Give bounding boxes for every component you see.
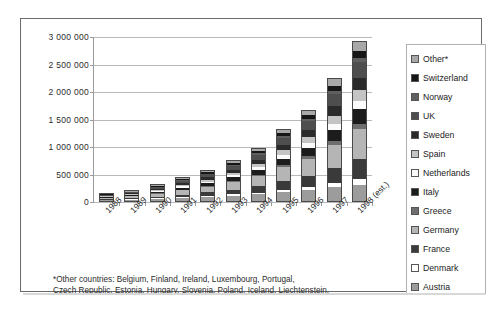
legend-label: Italy	[423, 187, 439, 197]
bar-segment-sweden	[328, 106, 341, 116]
y-axis-tick-label: 1 500 000	[48, 115, 89, 125]
legend-label: Netherlands	[423, 168, 470, 178]
bar-segment-uk	[277, 138, 290, 145]
stacked-bar[interactable]	[301, 110, 316, 202]
y-tick-mark	[90, 175, 94, 176]
legend-label: Sweden	[423, 130, 454, 140]
legend-item[interactable]: Netherlands	[411, 163, 482, 182]
legend-item[interactable]: Austria	[411, 277, 482, 296]
legend-label: UK	[423, 111, 435, 121]
legend-swatch-icon	[411, 74, 419, 82]
stacked-bar[interactable]	[226, 160, 241, 202]
legend-swatch-icon	[411, 55, 419, 63]
legend-label: Germany	[423, 225, 459, 235]
legend-item[interactable]: Switzerland	[411, 68, 482, 87]
bar-segment-sweden	[302, 130, 315, 137]
legend-swatch-icon	[411, 264, 419, 272]
bar-segment-germany	[277, 167, 290, 181]
legend-label: Denmark	[423, 263, 458, 273]
y-axis-tick-label: 3 000 000	[48, 32, 89, 42]
y-axis-tick-label: 0	[84, 197, 89, 207]
chart-frame: 3 000 0002 500 0002 000 0001 500 0001 00…	[20, 18, 482, 292]
stacked-bar[interactable]	[276, 129, 291, 202]
legend-item[interactable]: Norway	[411, 87, 482, 106]
legend-item[interactable]: Spain	[411, 144, 482, 163]
y-tick-mark	[90, 202, 94, 203]
y-tick-mark	[90, 120, 94, 121]
bar-segment-sweden	[353, 78, 366, 90]
bar-segment-spain	[353, 90, 366, 101]
legend-swatch-icon	[411, 226, 419, 234]
legend-swatch-icon	[411, 245, 419, 253]
legend-item[interactable]: France	[411, 239, 482, 258]
stacked-bar[interactable]	[251, 148, 266, 202]
legend-label: Norway	[423, 92, 452, 102]
legend-item[interactable]: Sweden	[411, 125, 482, 144]
bar-segment-uk	[302, 121, 315, 130]
stacked-bar[interactable]	[352, 41, 367, 202]
chart-screenshot: 3 000 0002 500 0002 000 0001 500 0001 00…	[0, 0, 504, 309]
y-axis-tick-label: 1 000 000	[48, 142, 89, 152]
bar-segment-italy	[353, 109, 366, 124]
bar-segment-italy	[302, 148, 315, 156]
legend-item[interactable]: Germany	[411, 220, 482, 239]
bar-segment-france	[302, 176, 315, 187]
bar-segment-spain	[328, 116, 341, 124]
legend-swatch-icon	[411, 150, 419, 158]
legend-swatch-icon	[411, 93, 419, 101]
chart-legend: Other*SwitzerlandNorwayUKSwedenSpainNeth…	[406, 44, 486, 294]
legend-label: Other*	[423, 54, 448, 64]
bar-segment-germany	[353, 129, 366, 159]
legend-swatch-icon	[411, 283, 419, 291]
legend-swatch-icon	[411, 188, 419, 196]
y-tick-mark	[90, 147, 94, 148]
legend-swatch-icon	[411, 131, 419, 139]
legend-label: Greece	[423, 206, 452, 216]
legend-item[interactable]: Greece	[411, 201, 482, 220]
legend-item[interactable]: Denmark	[411, 258, 482, 277]
bar-segment-germany	[252, 176, 265, 186]
y-axis-tick-label: 2 000 000	[48, 87, 89, 97]
bar-segment-germany	[328, 145, 341, 168]
bar-segment-uk	[353, 62, 366, 78]
y-tick-mark	[90, 92, 94, 93]
bar-segment-france	[328, 168, 341, 183]
gridline	[94, 65, 372, 66]
gridline	[94, 37, 372, 38]
legend-swatch-icon	[411, 169, 419, 177]
footnote-line-1: *Other countries: Belgium, Finland, Irel…	[53, 274, 353, 285]
plot-area: 3 000 0002 500 0002 000 0001 500 0001 00…	[93, 37, 371, 202]
bar-segment-france	[277, 181, 290, 190]
legend-label: France	[423, 244, 450, 254]
bar-segment-other	[353, 42, 366, 51]
bar-segment-germany	[302, 159, 315, 176]
bar-segment-italy	[328, 130, 341, 141]
legend-item[interactable]: Italy	[411, 182, 482, 201]
legend-item[interactable]: UK	[411, 106, 482, 125]
y-axis-tick-label: 500 000	[56, 170, 89, 180]
bar-segment-netherlands	[353, 101, 366, 109]
stacked-bar[interactable]	[327, 78, 342, 202]
legend-label: Switzerland	[423, 73, 468, 83]
legend-swatch-icon	[411, 207, 419, 215]
bar-segment-uk	[328, 94, 341, 106]
legend-label: Spain	[423, 149, 445, 159]
footnote-line-2: Czech Republic, Estonia, Hungary, Sloven…	[53, 285, 353, 296]
legend-label: Austria	[423, 282, 450, 292]
legend-swatch-icon	[411, 112, 419, 120]
bar-segment-switzerland	[353, 51, 366, 58]
y-axis-tick-label: 2 500 000	[48, 60, 89, 70]
bar-segment-germany	[227, 182, 240, 190]
legend-item[interactable]: Other*	[411, 49, 482, 68]
bar-segment-other	[328, 79, 341, 86]
footnote: *Other countries: Belgium, Finland, Irel…	[53, 274, 353, 296]
bar-segment-france	[353, 159, 366, 179]
y-tick-mark	[90, 65, 94, 66]
y-tick-mark	[90, 37, 94, 38]
